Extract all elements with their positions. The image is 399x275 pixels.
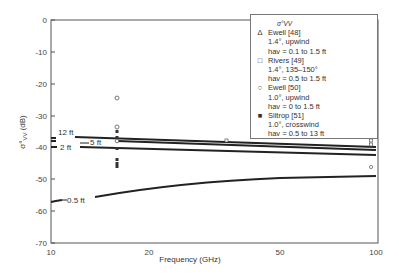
y-axis bbox=[51, 20, 55, 243]
open-circle-icon: ○ bbox=[255, 83, 265, 92]
curve-0-5ft bbox=[51, 176, 376, 202]
legend-entry-rivers49: □ Rivers [49] 1.4°, 135–150° hav = 0.5 t… bbox=[255, 56, 375, 84]
point-siltrop bbox=[116, 147, 119, 150]
legend-title: σ°VV bbox=[255, 19, 375, 28]
legend-entry-ewell50: ○ Ewell [50] 1.0°, upwind hav = 0 to 1.5… bbox=[255, 83, 375, 111]
label-5ft: 5 ft bbox=[90, 138, 102, 147]
point-siltrop bbox=[116, 136, 119, 139]
y-tick-minus30: -30 bbox=[35, 112, 47, 121]
data-points-16ghz bbox=[115, 96, 119, 168]
filled-square-icon: ■ bbox=[255, 111, 265, 120]
point-ewell50 bbox=[115, 139, 119, 143]
point-siltrop bbox=[116, 162, 119, 165]
point-rivers49 bbox=[370, 139, 373, 142]
point-ewell50 bbox=[369, 165, 372, 168]
label-12ft: 12 ft bbox=[58, 128, 74, 137]
x-tick-20: 20 bbox=[145, 248, 154, 257]
y-tick-minus10: -10 bbox=[35, 48, 47, 57]
legend-entry-siltrop51: ■ Siltrop [51] 1.0°, crosswind hav = 0.5… bbox=[255, 111, 375, 139]
point-rivers49 bbox=[370, 143, 373, 146]
y-tick-minus20: -20 bbox=[35, 80, 47, 89]
point-ewell50 bbox=[115, 125, 119, 129]
point-siltrop bbox=[116, 130, 119, 133]
y-tick-minus60: -60 bbox=[35, 207, 47, 216]
y-axis-label: σ°VV (dB) bbox=[18, 115, 28, 149]
point-rivers49 bbox=[225, 139, 228, 142]
point-siltrop bbox=[116, 158, 119, 161]
point-siltrop bbox=[116, 165, 119, 168]
x-tick-10: 10 bbox=[47, 248, 56, 257]
x-tick-100: 100 bbox=[369, 248, 383, 257]
y-tick-minus70: -70 bbox=[35, 239, 47, 248]
legend: σ°VV Δ Ewell [48] 1.4°, upwind hav = 0.1… bbox=[250, 14, 378, 139]
x-axis-label: Frequency (GHz) bbox=[159, 255, 221, 264]
x-tick-50: 50 bbox=[276, 248, 285, 257]
y-tick-0: 0 bbox=[43, 16, 48, 25]
legend-entry-ewell48: Δ Ewell [48] 1.4°, upwind hav = 0.1 to 1… bbox=[255, 28, 375, 56]
triangle-icon: Δ bbox=[255, 28, 265, 37]
y-tick-minus50: -50 bbox=[35, 175, 47, 184]
label-0-5ft: 0.5 ft bbox=[67, 196, 86, 205]
point-ewell50 bbox=[115, 96, 119, 100]
y-tick-minus40: -40 bbox=[35, 143, 47, 152]
open-square-icon: □ bbox=[255, 56, 265, 65]
label-2ft: 2 ft bbox=[60, 143, 72, 152]
